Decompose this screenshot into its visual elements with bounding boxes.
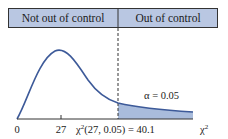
label-not-out-of-control: Not out of control <box>22 12 105 24</box>
region-header: Not out of control Out of control <box>9 9 218 28</box>
alpha-annotation: α = 0.05 <box>144 90 179 101</box>
density-curve <box>17 50 193 119</box>
chi-square-chart: Not out of control Out of control 0 27 χ… <box>0 0 228 139</box>
x-axis-label: χ2 <box>199 123 209 135</box>
x-tick-label-27: 27 <box>56 124 67 135</box>
x-tick-label-0: 0 <box>14 124 19 135</box>
critical-value-label: χ2(27, 0.05) = 40.1 <box>75 123 155 136</box>
label-out-of-control: Out of control <box>135 12 200 24</box>
